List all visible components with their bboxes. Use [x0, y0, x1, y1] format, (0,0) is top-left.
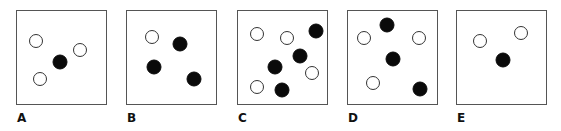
- filled-circle-icon: [187, 72, 202, 87]
- panel-label-c: C: [238, 112, 247, 124]
- hollow-circle-icon: [280, 31, 294, 45]
- panel-label-e: E: [457, 112, 465, 124]
- filled-circle-icon: [268, 60, 283, 75]
- filled-circle-icon: [413, 82, 428, 97]
- filled-circle-icon: [147, 60, 162, 75]
- panel-b[interactable]: [126, 10, 217, 105]
- hollow-circle-icon: [29, 34, 43, 48]
- filled-circle-icon: [380, 18, 395, 33]
- filled-circle-icon: [386, 52, 401, 67]
- filled-circle-icon: [496, 53, 511, 68]
- hollow-circle-icon: [250, 27, 264, 41]
- panel-label-b: B: [127, 112, 136, 124]
- hollow-circle-icon: [250, 80, 264, 94]
- hollow-circle-icon: [514, 26, 528, 40]
- filled-circle-icon: [53, 55, 68, 70]
- panel-label-d: D: [348, 112, 358, 124]
- filled-circle-icon: [275, 83, 290, 98]
- filled-circle-icon: [173, 37, 188, 52]
- hollow-circle-icon: [305, 66, 319, 80]
- filled-circle-icon: [293, 49, 308, 64]
- hollow-circle-icon: [473, 34, 487, 48]
- panel-label-a: A: [17, 112, 26, 124]
- hollow-circle-icon: [357, 31, 371, 45]
- hollow-circle-icon: [33, 72, 47, 86]
- filled-circle-icon: [309, 24, 324, 39]
- hollow-circle-icon: [145, 30, 159, 44]
- hollow-circle-icon: [412, 31, 426, 45]
- hollow-circle-icon: [73, 43, 87, 57]
- hollow-circle-icon: [366, 76, 380, 90]
